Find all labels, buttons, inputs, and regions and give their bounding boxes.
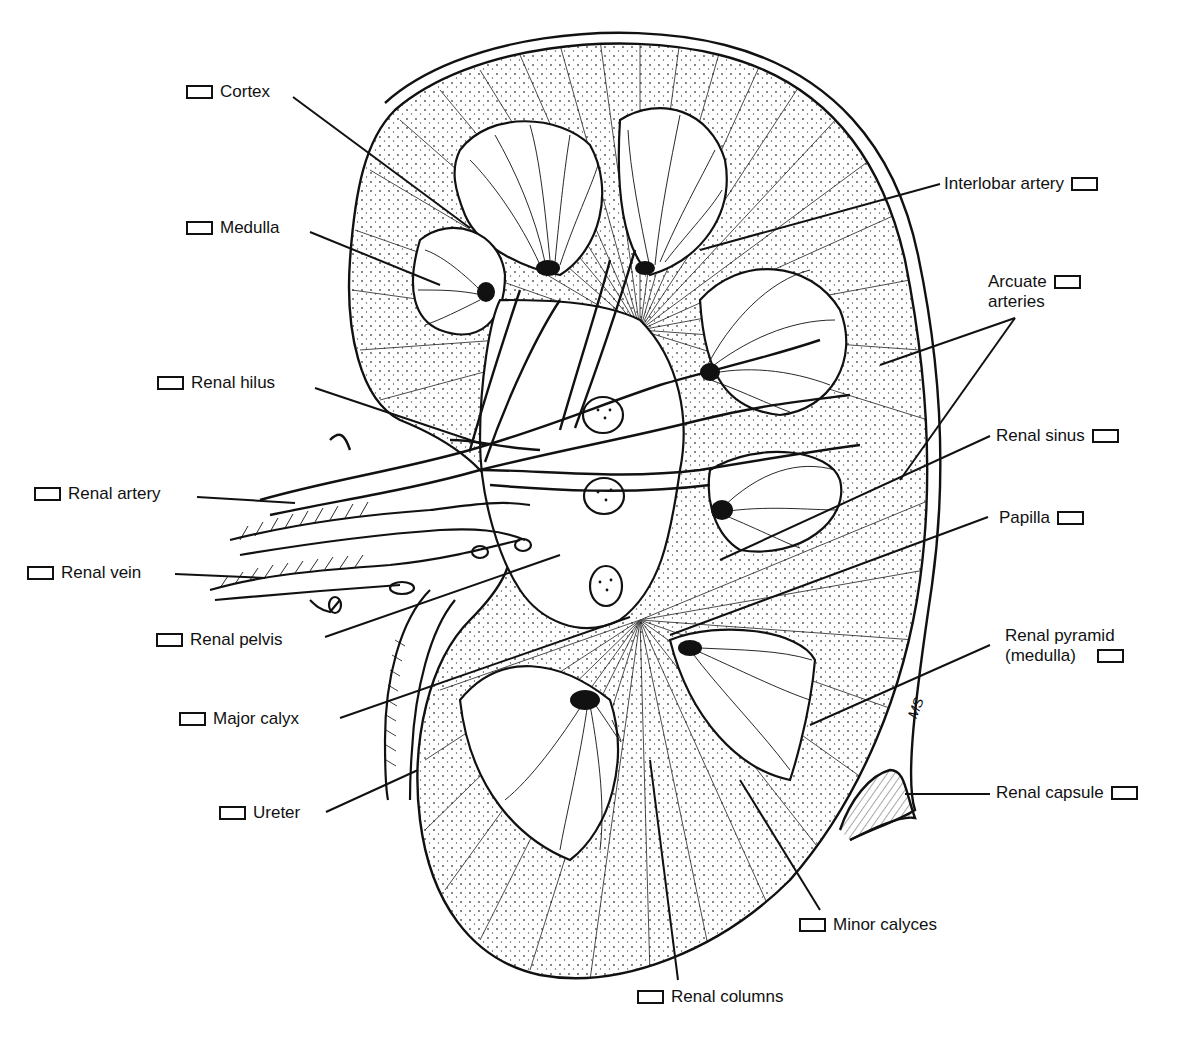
renal-artery-label-text: Renal artery [68,484,161,504]
renal-artery-checkbox[interactable] [34,487,61,501]
papilla-label-text: Papilla [999,508,1050,528]
label-medulla: Medulla [186,218,280,238]
renal-pelvis-checkbox[interactable] [156,633,183,647]
arcuate-label-line2: arteries [988,292,1081,312]
renal-hilus-checkbox[interactable] [157,376,184,390]
renal-sinus-checkbox[interactable] [1092,429,1119,443]
renal-columns-label-text: Renal columns [671,987,783,1007]
renal-sinus-label-text: Renal sinus [996,426,1085,446]
label-interlobar-artery: Interlobar artery [944,174,1098,194]
renal-hilus-label-text: Renal hilus [191,373,275,393]
renal-vein-label-text: Renal vein [61,563,141,583]
ureter-label-text: Ureter [253,803,300,823]
renal-capsule-label-text: Renal capsule [996,783,1104,803]
cortex-label-text: Cortex [220,82,270,102]
renal-columns-checkbox[interactable] [637,990,664,1004]
renal-pyramid-checkbox[interactable] [1097,649,1124,663]
label-renal-pyramid: Renal pyramid (medulla) [1005,626,1124,666]
renal-pelvis-label-text: Renal pelvis [190,630,283,650]
renal-capsule-checkbox[interactable] [1111,786,1138,800]
renal-pyramid-label-line1: Renal pyramid [1005,626,1124,646]
cortex-checkbox[interactable] [186,85,213,99]
minor-calyces-label-text: Minor calyces [833,915,937,935]
arcuate-arteries-checkbox[interactable] [1054,275,1081,289]
major-calyx-label-text: Major calyx [213,709,299,729]
arcuate-label-line1: Arcuate [988,272,1047,292]
label-renal-vein: Renal vein [27,563,141,583]
interlobar-artery-checkbox[interactable] [1071,177,1098,191]
label-renal-artery: Renal artery [34,484,161,504]
major-calyx-checkbox[interactable] [179,712,206,726]
vessel-hatching [220,502,368,588]
papilla-checkbox[interactable] [1057,511,1084,525]
label-ureter: Ureter [219,803,300,823]
label-papilla: Papilla [999,508,1084,528]
medulla-checkbox[interactable] [186,221,213,235]
label-renal-capsule: Renal capsule [996,783,1138,803]
hilus-vessels [210,503,531,613]
renal-vein-checkbox[interactable] [27,566,54,580]
label-renal-hilus: Renal hilus [157,373,275,393]
label-renal-sinus: Renal sinus [996,426,1119,446]
minor-calyces-checkbox[interactable] [799,918,826,932]
label-major-calyx: Major calyx [179,709,299,729]
interlobar-artery-label-text: Interlobar artery [944,174,1064,194]
medulla-label-text: Medulla [220,218,280,238]
label-renal-pelvis: Renal pelvis [156,630,283,650]
label-renal-columns: Renal columns [637,987,783,1007]
label-minor-calyces: Minor calyces [799,915,937,935]
label-arcuate-arteries: Arcuate arteries [988,272,1081,312]
renal-pyramid-label-line2: (medulla) [1005,646,1076,666]
ureter-checkbox[interactable] [219,806,246,820]
label-cortex: Cortex [186,82,270,102]
